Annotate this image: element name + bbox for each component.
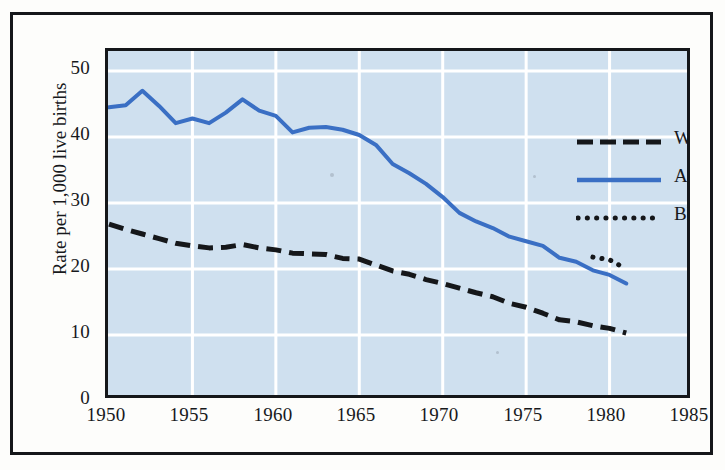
print-speck: [533, 175, 536, 178]
legend-item-white[interactable]: White: [576, 127, 690, 165]
legend-label-white: White: [674, 127, 690, 149]
print-speck: [330, 173, 334, 177]
x-tick-label-1985: 1985: [654, 404, 724, 426]
series-line-all-other: [109, 91, 626, 284]
legend-swatch-dotted-icon: [576, 212, 662, 224]
y-tick-label-20: 20: [28, 255, 90, 277]
x-tick-label-1950: 1950: [71, 404, 141, 426]
y-tick-label-10: 10: [28, 321, 90, 343]
y-tick-label-30: 30: [28, 189, 90, 211]
legend-label-black: Black: [674, 203, 690, 225]
x-tick-label-1975: 1975: [488, 404, 558, 426]
legend: White All other Black: [576, 127, 690, 241]
x-tick-label-1970: 1970: [404, 404, 474, 426]
legend-label-all-other: All other: [674, 165, 690, 187]
series-line-white: [109, 224, 626, 333]
legend-swatch-solid-icon: [576, 174, 662, 186]
legend-item-all-other[interactable]: All other: [576, 165, 690, 203]
figure-root: Rate per 1,000 live births 50 40 30 20 1…: [0, 0, 725, 470]
x-tick-label-1980: 1980: [571, 404, 641, 426]
legend-swatch-dashed-icon: [576, 136, 662, 148]
x-tick-label-1965: 1965: [321, 404, 391, 426]
x-tick-label-1955: 1955: [154, 404, 224, 426]
y-tick-label-50: 50: [28, 57, 90, 79]
series-lines: [109, 91, 626, 333]
print-speck: [496, 351, 499, 354]
plot-area: White All other Black: [105, 48, 690, 398]
x-tick-label-1960: 1960: [238, 404, 308, 426]
legend-item-black[interactable]: Black: [576, 203, 690, 241]
y-tick-label-40: 40: [28, 123, 90, 145]
